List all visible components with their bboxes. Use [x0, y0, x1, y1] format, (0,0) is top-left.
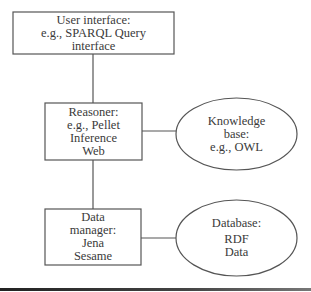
data-manager-line-4: Sesame — [74, 250, 112, 263]
user-interface-line-3: interface — [72, 40, 116, 53]
reasoner-line-1: Reasoner: — [69, 106, 119, 119]
knowledge-base-node: Knowledge base: e.g., OWL — [176, 98, 297, 170]
database-node: Database: RDF Data — [176, 200, 297, 276]
data-manager-node: Data manager: Jena Sesame — [45, 209, 141, 265]
database-line-1: Database: — [212, 217, 261, 230]
database-line-3: Data — [225, 246, 249, 259]
bottom-rule — [0, 288, 311, 291]
knowledge-base-line-2: base: — [224, 128, 250, 141]
reasoner-line-4: Web — [82, 145, 105, 158]
user-interface-line-1: User interface: — [57, 14, 131, 27]
user-interface-line-2: e.g., SPARQL Query — [41, 27, 146, 40]
reasoner-node: Reasoner: e.g., Pellet Inference Web — [45, 103, 142, 160]
knowledge-base-line-3: e.g., OWL — [210, 141, 263, 154]
reasoner-line-2: e.g., Pellet — [67, 119, 120, 132]
knowledge-base-line-1: Knowledge — [208, 115, 266, 128]
reasoner-line-3: Inference — [70, 132, 117, 145]
user-interface-node: User interface: e.g., SPARQL Query inter… — [13, 12, 174, 54]
